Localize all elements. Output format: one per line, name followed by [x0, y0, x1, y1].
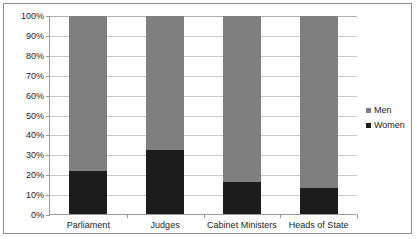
bar-segment-women	[223, 182, 261, 214]
legend-item[interactable]: Men	[366, 105, 405, 115]
y-axis-tick-label: 90%	[26, 31, 44, 41]
x-axis-tick-mark	[127, 214, 128, 218]
y-axis-tick-mark	[46, 215, 50, 216]
y-axis-tick-label: 10%	[26, 190, 44, 200]
x-axis-category-label: Parliament	[67, 220, 110, 230]
y-axis-tick-label: 70%	[26, 71, 44, 81]
legend-swatch-icon	[366, 123, 371, 128]
legend-label: Women	[374, 120, 405, 130]
x-axis-category-label: Judges	[151, 220, 180, 230]
x-axis-category-label: Cabinet Ministers	[207, 220, 277, 230]
y-axis-tick-label: 20%	[26, 170, 44, 180]
y-axis-tick-label: 60%	[26, 91, 44, 101]
bar-segment-women	[69, 171, 107, 214]
y-axis-tick-label: 30%	[26, 150, 44, 160]
bar-segment-women	[146, 150, 184, 214]
bar-group	[50, 16, 127, 214]
y-axis-tick-label: 0%	[31, 210, 44, 220]
stacked-bar	[69, 16, 107, 214]
bar-segment-men	[146, 16, 184, 150]
y-axis-tick-label: 50%	[26, 111, 44, 121]
bar-group	[127, 16, 204, 214]
y-axis-tick-label: 80%	[26, 51, 44, 61]
bar-group	[204, 16, 281, 214]
bar-segment-men	[69, 16, 107, 171]
x-axis-category-label: Heads of State	[289, 220, 349, 230]
plot-area: 0%10%20%30%40%50%60%70%80%90%100% Parlia…	[49, 16, 356, 215]
stacked-bar	[223, 16, 261, 214]
bar-segment-men	[223, 16, 261, 182]
bar-segment-women	[300, 188, 338, 214]
bar-segment-men	[300, 16, 338, 188]
legend-swatch-icon	[366, 108, 371, 113]
x-axis-tick-mark	[357, 214, 358, 218]
stacked-bar	[300, 16, 338, 214]
bar-group	[280, 16, 357, 214]
x-axis-tick-mark	[204, 214, 205, 218]
y-axis-tick-label: 40%	[26, 130, 44, 140]
x-axis-tick-mark	[280, 214, 281, 218]
legend-item[interactable]: Women	[366, 120, 405, 130]
legend: MenWomen	[366, 105, 405, 135]
stacked-bar	[146, 16, 184, 214]
chart-frame: 0%10%20%30%40%50%60%70%80%90%100% Parlia…	[3, 3, 412, 234]
y-axis-tick-label: 100%	[21, 11, 44, 21]
legend-label: Men	[374, 105, 392, 115]
